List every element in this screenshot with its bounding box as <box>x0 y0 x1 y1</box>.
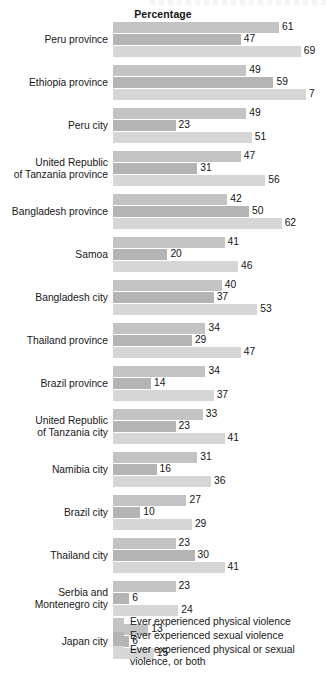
bar-value-label: 30 <box>195 549 209 561</box>
bar <box>113 249 167 260</box>
bar-line: 40 <box>113 280 326 291</box>
clipped-header-remnant <box>150 0 326 5</box>
bar <box>113 77 273 88</box>
bar <box>113 151 241 162</box>
bar <box>113 120 176 131</box>
bar-value-label: 36 <box>211 475 225 487</box>
bar <box>113 237 225 248</box>
chart-legend: Ever experienced physical violenceEver e… <box>113 616 326 670</box>
bar-line: 23 <box>113 120 326 131</box>
chart-title: Percentage <box>0 8 326 20</box>
bar-line: 29 <box>113 519 326 530</box>
bar-value-label: 29 <box>192 518 206 530</box>
bar-line: 23 <box>113 581 326 592</box>
category-label-line: United Republic <box>0 415 108 427</box>
bar-group: 492351 <box>113 108 326 144</box>
bar-line: 27 <box>113 495 326 506</box>
chart-row: Thailand province342947 <box>0 323 326 366</box>
bar-value-label: 47 <box>241 150 255 162</box>
bar-value-label: 31 <box>197 451 211 463</box>
bar <box>113 581 176 592</box>
bar-value-label: 14 <box>151 377 165 389</box>
bar-line: 46 <box>113 261 326 272</box>
category-label: Japan city <box>0 636 108 648</box>
legend-swatch <box>113 618 124 627</box>
category-label-line: Namibia city <box>0 464 108 476</box>
bar-value-label: 24 <box>178 604 192 616</box>
bar-line: 41 <box>113 562 326 573</box>
bar-line: 69 <box>113 46 326 57</box>
bar <box>113 390 214 401</box>
category-label-line: Montenegro city <box>0 599 108 611</box>
bar <box>113 378 151 389</box>
bar-value-label: 23 <box>176 420 190 432</box>
bar <box>113 46 301 57</box>
bar-value-label: 31 <box>197 162 211 174</box>
bar <box>113 433 225 444</box>
bar <box>113 65 246 76</box>
category-label: Thailand province <box>0 335 108 347</box>
category-label-line: Bangladesh province <box>0 206 108 218</box>
chart-row: United Republicof Tanzania province47315… <box>0 151 326 194</box>
bar <box>113 409 203 420</box>
bar-group: 425062 <box>113 194 326 230</box>
bar-value-label: 69 <box>301 45 315 57</box>
bar-group: 311636 <box>113 452 326 488</box>
bar-value-label: 23 <box>176 580 190 592</box>
bar-value-label: 50 <box>249 205 263 217</box>
chart-row: Ethiopia province49597 <box>0 65 326 108</box>
bar-group: 342947 <box>113 323 326 359</box>
bar-line: 7 <box>113 89 326 100</box>
bar-line: 42 <box>113 194 326 205</box>
bar-line: 51 <box>113 132 326 143</box>
bar-line: 61 <box>113 22 326 33</box>
category-label: Serbia andMontenegro city <box>0 587 108 610</box>
bar-line: 29 <box>113 335 326 346</box>
bar-value-label: 53 <box>257 303 271 315</box>
bar-group: 341437 <box>113 366 326 402</box>
bar-line: 49 <box>113 108 326 119</box>
bar <box>113 421 176 432</box>
bar <box>113 175 265 186</box>
bar-line: 30 <box>113 550 326 561</box>
bar-line: 50 <box>113 206 326 217</box>
legend-label: Ever experienced sexual violence <box>130 630 283 642</box>
chart-row: Bangladesh province425062 <box>0 194 326 237</box>
category-label-line: Serbia and <box>0 587 108 599</box>
bar-group: 412046 <box>113 237 326 273</box>
bar <box>113 347 241 358</box>
bar-value-label: 47 <box>241 346 255 358</box>
bar <box>113 593 129 604</box>
bar-line: 56 <box>113 175 326 186</box>
category-label-line: Samoa <box>0 249 108 261</box>
bar-line: 53 <box>113 304 326 315</box>
bar-line: 47 <box>113 34 326 45</box>
bar <box>113 452 197 463</box>
category-label-line: United Republic <box>0 157 108 169</box>
bar-value-label: 49 <box>246 64 260 76</box>
bar-value-label: 40 <box>222 279 236 291</box>
bar <box>113 218 282 229</box>
chart-row: Peru city492351 <box>0 108 326 151</box>
bar <box>113 194 227 205</box>
chart-row: Thailand city233041 <box>0 538 326 581</box>
bar-line: 33 <box>113 409 326 420</box>
bar-value-label: 20 <box>167 248 181 260</box>
bar-line: 47 <box>113 347 326 358</box>
bar-line: 34 <box>113 323 326 334</box>
bar-value-label: 42 <box>227 193 241 205</box>
bar-line: 23 <box>113 538 326 549</box>
bar-value-label: 6 <box>129 592 138 604</box>
bar-line: 20 <box>113 249 326 260</box>
bar-value-label: 16 <box>157 463 171 475</box>
bar <box>113 292 214 303</box>
bar-line: 36 <box>113 476 326 487</box>
bar-value-label: 41 <box>225 561 239 573</box>
bar <box>113 538 176 549</box>
bar-value-label: 34 <box>205 365 219 377</box>
chart-page: Percentage Peru province614769Ethiopia p… <box>0 0 326 681</box>
bar <box>113 163 197 174</box>
bar-line: 41 <box>113 433 326 444</box>
category-label-line: Ethiopia province <box>0 77 108 89</box>
bar-value-label: 49 <box>246 107 260 119</box>
